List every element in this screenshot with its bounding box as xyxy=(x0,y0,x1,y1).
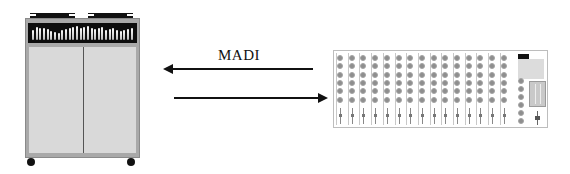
knob-icon[interactable] xyxy=(372,63,378,69)
knob-icon[interactable] xyxy=(349,80,355,86)
master-knob-icon[interactable] xyxy=(518,78,524,84)
knob-icon[interactable] xyxy=(454,63,460,69)
fader-cap[interactable] xyxy=(398,114,401,117)
knob-icon[interactable] xyxy=(419,55,425,61)
knob-icon[interactable] xyxy=(360,97,366,103)
knob-icon[interactable] xyxy=(337,80,343,86)
knob-icon[interactable] xyxy=(419,88,425,94)
knob-icon[interactable] xyxy=(454,72,460,78)
knob-icon[interactable] xyxy=(489,88,495,94)
knob-icon[interactable] xyxy=(454,88,460,94)
knob-icon[interactable] xyxy=(466,72,472,78)
knob-icon[interactable] xyxy=(337,88,343,94)
knob-icon[interactable] xyxy=(396,63,402,69)
knob-icon[interactable] xyxy=(396,55,402,61)
knob-icon[interactable] xyxy=(431,88,437,94)
master-knob-icon[interactable] xyxy=(518,118,524,124)
fader-cap[interactable] xyxy=(479,114,482,117)
knob-icon[interactable] xyxy=(337,55,343,61)
knob-icon[interactable] xyxy=(442,55,448,61)
knob-icon[interactable] xyxy=(372,80,378,86)
knob-icon[interactable] xyxy=(372,88,378,94)
knob-icon[interactable] xyxy=(360,55,366,61)
knob-icon[interactable] xyxy=(396,88,402,94)
knob-icon[interactable] xyxy=(466,55,472,61)
knob-icon[interactable] xyxy=(466,97,472,103)
knob-icon[interactable] xyxy=(396,72,402,78)
knob-icon[interactable] xyxy=(384,97,390,103)
knob-icon[interactable] xyxy=(407,55,413,61)
knob-icon[interactable] xyxy=(384,55,390,61)
knob-icon[interactable] xyxy=(489,97,495,103)
knob-icon[interactable] xyxy=(337,63,343,69)
knob-icon[interactable] xyxy=(372,97,378,103)
knob-icon[interactable] xyxy=(489,63,495,69)
fader-cap[interactable] xyxy=(351,114,354,117)
knob-icon[interactable] xyxy=(407,72,413,78)
fader-cap[interactable] xyxy=(374,114,377,117)
knob-icon[interactable] xyxy=(360,88,366,94)
knob-icon[interactable] xyxy=(477,88,483,94)
master-knob-icon[interactable] xyxy=(518,94,524,100)
knob-icon[interactable] xyxy=(384,72,390,78)
knob-icon[interactable] xyxy=(442,97,448,103)
knob-icon[interactable] xyxy=(337,72,343,78)
fader-cap[interactable] xyxy=(491,114,494,117)
knob-icon[interactable] xyxy=(419,80,425,86)
knob-icon[interactable] xyxy=(349,97,355,103)
fader-cap[interactable] xyxy=(339,114,342,117)
knob-icon[interactable] xyxy=(501,72,507,78)
knob-icon[interactable] xyxy=(501,97,507,103)
knob-icon[interactable] xyxy=(396,80,402,86)
fader-cap[interactable] xyxy=(503,114,506,117)
knob-icon[interactable] xyxy=(419,63,425,69)
knob-icon[interactable] xyxy=(431,63,437,69)
master-knob-icon[interactable] xyxy=(518,86,524,92)
knob-icon[interactable] xyxy=(407,88,413,94)
knob-icon[interactable] xyxy=(501,55,507,61)
knob-icon[interactable] xyxy=(349,88,355,94)
knob-icon[interactable] xyxy=(489,55,495,61)
knob-icon[interactable] xyxy=(442,63,448,69)
knob-icon[interactable] xyxy=(372,55,378,61)
knob-icon[interactable] xyxy=(442,80,448,86)
knob-icon[interactable] xyxy=(501,80,507,86)
fader-cap[interactable] xyxy=(468,114,471,117)
knob-icon[interactable] xyxy=(349,72,355,78)
knob-icon[interactable] xyxy=(501,88,507,94)
knob-icon[interactable] xyxy=(419,97,425,103)
knob-icon[interactable] xyxy=(431,72,437,78)
knob-icon[interactable] xyxy=(477,97,483,103)
knob-icon[interactable] xyxy=(396,97,402,103)
knob-icon[interactable] xyxy=(407,80,413,86)
knob-icon[interactable] xyxy=(419,72,425,78)
knob-icon[interactable] xyxy=(360,80,366,86)
knob-icon[interactable] xyxy=(384,63,390,69)
knob-icon[interactable] xyxy=(384,88,390,94)
knob-icon[interactable] xyxy=(501,63,507,69)
knob-icon[interactable] xyxy=(466,80,472,86)
knob-icon[interactable] xyxy=(407,97,413,103)
fader-cap[interactable] xyxy=(362,114,365,117)
knob-icon[interactable] xyxy=(489,80,495,86)
knob-icon[interactable] xyxy=(477,80,483,86)
knob-icon[interactable] xyxy=(349,63,355,69)
knob-icon[interactable] xyxy=(477,63,483,69)
knob-icon[interactable] xyxy=(442,72,448,78)
master-knob-icon[interactable] xyxy=(518,102,524,108)
knob-icon[interactable] xyxy=(431,55,437,61)
fader-cap[interactable] xyxy=(456,114,459,117)
fader-cap[interactable] xyxy=(386,114,389,117)
knob-icon[interactable] xyxy=(466,63,472,69)
knob-icon[interactable] xyxy=(442,88,448,94)
knob-icon[interactable] xyxy=(337,97,343,103)
knob-icon[interactable] xyxy=(477,55,483,61)
knob-icon[interactable] xyxy=(349,55,355,61)
master-knob-icon[interactable] xyxy=(518,110,524,116)
knob-icon[interactable] xyxy=(466,88,472,94)
knob-icon[interactable] xyxy=(454,55,460,61)
knob-icon[interactable] xyxy=(360,72,366,78)
knob-icon[interactable] xyxy=(384,80,390,86)
fader-cap[interactable] xyxy=(409,114,412,117)
knob-icon[interactable] xyxy=(489,72,495,78)
